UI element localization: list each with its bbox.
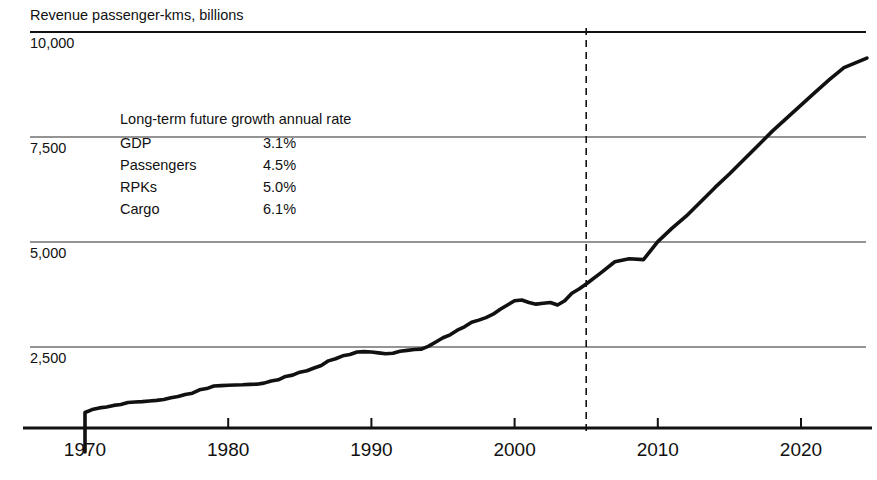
y-tick-label-5000: 5,000 — [30, 245, 66, 261]
y-axis-tick-labels: 2,5005,0007,50010,000 — [30, 35, 74, 366]
legend-value-passengers: 4.5% — [263, 157, 296, 173]
legend-value-rpks: 5.0% — [263, 179, 296, 195]
x-tick-label-2010: 2010 — [637, 439, 679, 460]
x-tick-label-2000: 2000 — [493, 439, 535, 460]
x-tick-label-1990: 1990 — [350, 439, 392, 460]
growth-rate-legend-table: Long-term future growth annual rate GDP … — [120, 111, 351, 217]
legend-label-rpks: RPKs — [120, 179, 157, 195]
chart-container: Revenue passenger-kms, billions 2,5005,0… — [0, 0, 877, 480]
x-tick-label-1980: 1980 — [207, 439, 249, 460]
legend-heading: Long-term future growth annual rate — [120, 111, 351, 127]
y-tick-label-10000: 10,000 — [30, 35, 74, 51]
y-tick-label-7500: 7,500 — [30, 140, 66, 156]
legend-label-gdp: GDP — [120, 135, 151, 151]
chart-title: Revenue passenger-kms, billions — [30, 7, 244, 23]
legend-label-passengers: Passengers — [120, 157, 197, 173]
revenue-rpk-line-chart: Revenue passenger-kms, billions 2,5005,0… — [0, 0, 877, 480]
x-tick-label-2020: 2020 — [780, 439, 822, 460]
x-axis-tick-labels: 197019801990200020102020 — [64, 439, 822, 460]
y-tick-label-2500: 2,500 — [30, 350, 66, 366]
legend-label-cargo: Cargo — [120, 201, 160, 217]
legend-value-cargo: 6.1% — [263, 201, 296, 217]
legend-value-gdp: 3.1% — [263, 135, 296, 151]
